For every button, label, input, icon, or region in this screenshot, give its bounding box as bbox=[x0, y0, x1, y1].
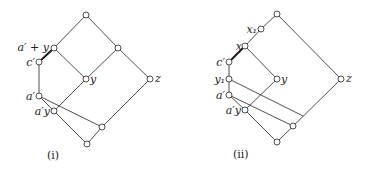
node-a-prime bbox=[226, 92, 232, 98]
node-c-prime bbox=[36, 59, 42, 65]
label-a-prime-y: a′y bbox=[226, 104, 242, 117]
edge bbox=[54, 111, 87, 144]
label-y: y bbox=[280, 73, 288, 86]
edge bbox=[118, 48, 150, 79]
edge bbox=[277, 79, 341, 142]
node-bottom bbox=[84, 141, 90, 147]
label-a-prime: a′ bbox=[26, 90, 36, 103]
node-bottom bbox=[274, 139, 280, 145]
node-upper-right bbox=[115, 45, 121, 51]
node-a-prime-plus-y bbox=[51, 45, 57, 51]
node-a-prime-y bbox=[242, 107, 248, 113]
node-top bbox=[83, 12, 89, 18]
edge bbox=[54, 15, 86, 48]
label-z: z bbox=[345, 72, 352, 85]
label-x1: x₁ bbox=[246, 23, 257, 36]
node-a-prime bbox=[36, 93, 42, 99]
node-z bbox=[338, 76, 344, 82]
edge bbox=[54, 48, 86, 79]
node-y1 bbox=[226, 76, 232, 82]
caption-ii: (ii) bbox=[233, 148, 249, 161]
node-y bbox=[83, 76, 89, 82]
node-lower-right bbox=[290, 123, 296, 129]
diagram-ii: x₁ x c′ y₁ y z a′ a′y (ii) bbox=[213, 11, 352, 161]
node-a-prime-y bbox=[51, 108, 57, 114]
node-c-prime bbox=[226, 59, 232, 65]
label-a-prime-plus-y: a′ + y bbox=[18, 41, 50, 54]
label-y: y bbox=[89, 73, 97, 86]
node-top bbox=[274, 11, 280, 17]
caption-i: (i) bbox=[47, 149, 59, 162]
edge bbox=[245, 110, 277, 142]
label-x: x bbox=[236, 40, 243, 53]
node-x bbox=[242, 43, 248, 49]
node-y bbox=[274, 76, 280, 82]
diagram-i: a′ + y c′ y z a′ a′y (i) bbox=[18, 12, 161, 162]
label-z: z bbox=[154, 72, 161, 85]
node-x1 bbox=[258, 26, 264, 32]
edge bbox=[86, 15, 118, 48]
label-a-prime: a′ bbox=[216, 89, 226, 102]
label-c-prime: c′ bbox=[216, 56, 225, 69]
edge bbox=[277, 14, 341, 79]
label-a-prime-y: a′y bbox=[35, 105, 51, 118]
label-c-prime: c′ bbox=[26, 56, 35, 69]
edge bbox=[245, 46, 277, 79]
edge bbox=[102, 79, 150, 127]
lattice-diagrams: a′ + y c′ y z a′ a′y (i) x₁ x c′ bbox=[0, 0, 367, 175]
node-lower-right bbox=[99, 124, 105, 130]
label-y1: y₁ bbox=[213, 73, 225, 86]
node-z bbox=[147, 76, 153, 82]
